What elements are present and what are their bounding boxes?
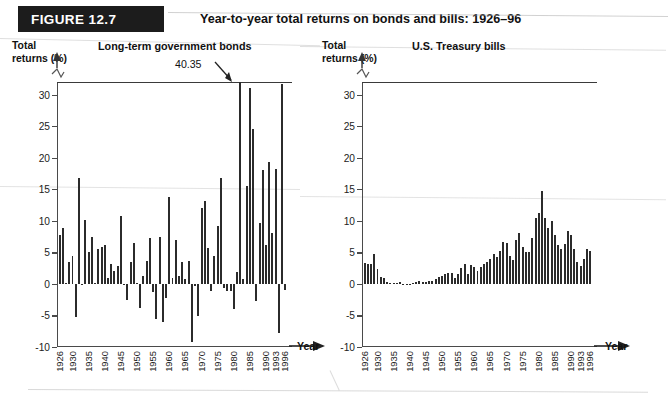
panel-title-bonds: Long-term government bonds [98,40,252,52]
bar [573,249,575,284]
y-tick [357,126,362,127]
bar [81,284,83,285]
y-tick-label: 30 [39,89,50,100]
x-axis-title-bonds: Year [297,340,319,352]
bar [268,162,270,284]
bar [515,240,517,284]
bar [59,235,61,284]
bar [194,284,196,286]
x-tick-label: 1996 [279,351,290,372]
bar [383,278,385,284]
panel-title-bills: U.S. Treasury bills [412,40,506,52]
figure-title: Year-to-year total returns on bonds and … [200,6,521,32]
bar [230,284,232,292]
bar [457,274,459,284]
y-tick [52,189,57,190]
y-tick [357,221,362,222]
bar [172,278,174,284]
y-tick [52,315,57,316]
x-tick-label: 1960 [468,351,479,372]
bar [223,284,225,288]
y-tick-label: -5 [346,310,355,321]
annotation-max-bonds: 40.35 [175,58,202,70]
bar [168,197,170,284]
bar [149,238,151,283]
x-axis-title-bills: Year [605,340,627,352]
bar [580,266,582,284]
bar [557,245,559,284]
bar [152,284,154,292]
y-tick [52,158,57,159]
bar [233,284,235,309]
bar [159,237,161,284]
bar [418,281,420,284]
bar [589,251,591,284]
bar [402,284,404,285]
y-tick-label: 0 [349,278,355,289]
y-tick [357,95,362,96]
bar [454,278,456,284]
plot-area-bills: -10-5051015202530 1926193019351940194519… [362,82,597,347]
bar [97,249,99,284]
y-tick [357,252,362,253]
bar [262,170,264,284]
y-tick [52,221,57,222]
x-tick-label: 1955 [452,351,463,372]
bar [239,82,241,284]
y-tick-label: -5 [41,310,50,321]
bar [570,235,572,284]
bar [84,220,86,284]
y-tick-label: 30 [344,89,355,100]
bar [78,178,80,284]
bar [538,213,540,284]
bar [165,284,167,299]
x-tick-label: 1980 [533,351,544,372]
bar [284,284,286,290]
x-tick-label: 1926 [359,351,370,372]
bar [281,84,283,284]
bar [162,284,164,322]
bar [236,272,238,284]
bar [547,228,549,284]
x-tick-label: 1935 [83,351,94,372]
bar [130,262,132,283]
bar [72,256,74,284]
bar [464,264,466,284]
bar [126,284,128,300]
bar [486,262,488,284]
bar [560,249,562,284]
x-tick-label: 1980 [228,351,239,372]
x-tick-label: 1926 [54,351,65,372]
chart-panel-bonds: Total returns (%) Long-term government b… [10,40,330,390]
y-tick-label: 5 [349,247,355,258]
bar [431,281,433,284]
bar [107,278,109,284]
bar [133,243,135,284]
bar [415,282,417,284]
bar [104,245,106,283]
bar [364,263,366,284]
x-tick-label: 1985 [549,351,560,372]
bar [178,276,180,284]
bar [428,281,430,284]
bar [259,223,261,284]
figure-header: FIGURE 12.7 Year-to-year total returns o… [0,6,666,32]
bar-series-bonds [58,82,292,347]
bar [88,252,90,284]
bar [75,284,77,317]
x-tick-label: 1955 [147,351,158,372]
bar [175,240,177,284]
bar [576,262,578,284]
y-tick-label: 25 [39,121,50,132]
bar [110,264,112,284]
bar [139,284,141,309]
bar [554,235,556,284]
bar [451,273,453,284]
x-tick-label: 1996 [584,351,595,372]
bar [535,218,537,284]
bar [255,284,257,301]
x-tick-label: 1975 [517,351,528,372]
bar [370,264,372,284]
x-tick-label: 1945 [115,351,126,372]
x-tick-label: 1945 [420,351,431,372]
